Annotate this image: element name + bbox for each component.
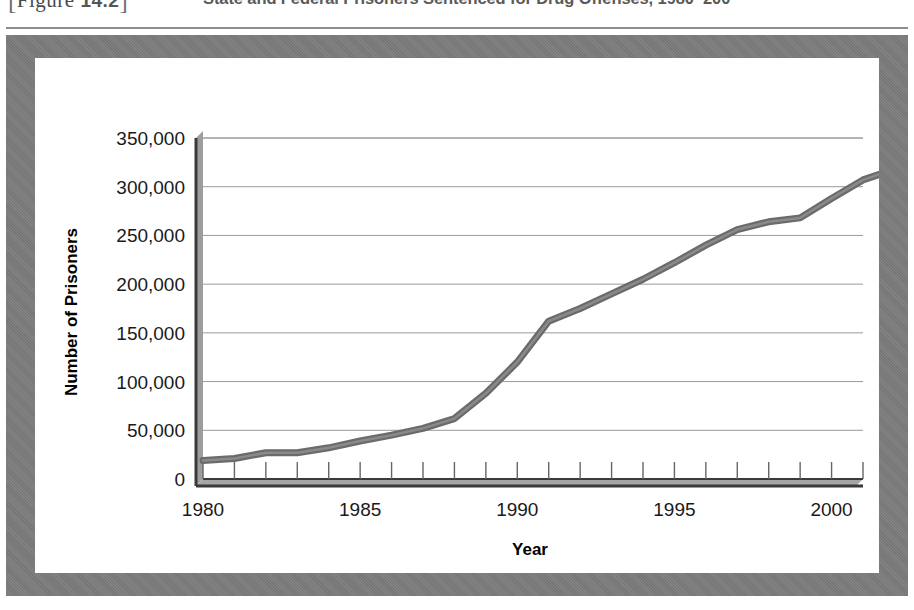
x-axis-tick-label: 1990 [496, 499, 538, 520]
x-axis-tick-label: 2000 [810, 499, 852, 520]
figure-tag-label: Figure [17, 0, 75, 12]
x-axis-title: Year [512, 540, 548, 559]
y-axis-tick-label: 300,000 [116, 177, 185, 198]
bracket-close-glyph: ] [119, 0, 128, 14]
header-divider [6, 27, 908, 29]
data-series-line-highlight [203, 169, 879, 460]
figure-header: [Figure 14.2] State and Federal Prisoner… [0, 0, 914, 17]
x-axis-tick-label: 1980 [182, 499, 224, 520]
bracket-open-glyph: [ [8, 0, 17, 14]
x-axis-tick-label: 1995 [653, 499, 695, 520]
chart-plot-canvas: 350,000300,000250,000200,000150,000100,0… [35, 58, 879, 573]
y-axis-tick-label: 100,000 [116, 372, 185, 393]
y-axis-tick-label: 350,000 [116, 128, 185, 149]
data-series-line [203, 169, 879, 460]
gridlines [203, 138, 863, 430]
y-axis-tick-labels: 350,000300,000250,000200,000150,000100,0… [116, 128, 185, 490]
figure-title: State and Federal Prisoners Sentenced fo… [203, 0, 730, 8]
figure-number-tag: [Figure 14.2] [8, 0, 128, 15]
x-axis-tick-label: 1985 [339, 499, 381, 520]
figure-tag-number: 14.2 [80, 0, 119, 11]
chart-outer-frame: 350,000300,000250,000200,000150,000100,0… [6, 35, 908, 596]
y-axis-tick-label: 250,000 [116, 225, 185, 246]
y-axis-title: Number of Prisoners [62, 228, 81, 396]
y-axis-tick-label: 50,000 [127, 420, 185, 441]
y-axis-tick-label: 150,000 [116, 323, 185, 344]
x-axis-tick-labels: 19801985199019952000 [182, 499, 853, 520]
y-axis-tick-label: 0 [174, 469, 185, 490]
x-axis-ticks [203, 462, 863, 479]
line-chart: 350,000300,000250,000200,000150,000100,0… [35, 58, 879, 573]
y-axis-tick-label: 200,000 [116, 274, 185, 295]
